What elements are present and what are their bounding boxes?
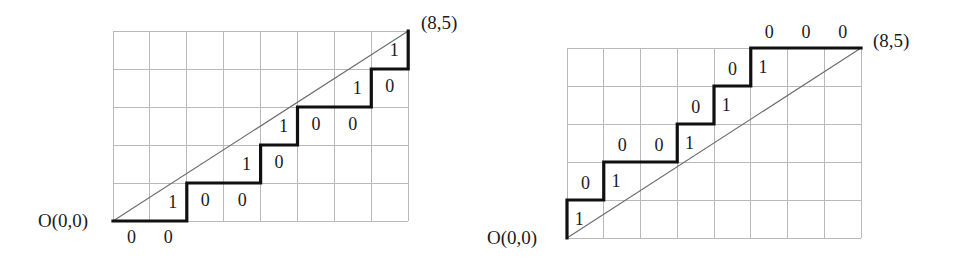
step-digit-label: 0 [724, 60, 740, 78]
step-digit-label: 0 [614, 136, 630, 154]
right-lattice-diagram: O(0,0) (8,5) 1010010101000 [479, 0, 957, 265]
step-digit-label: 0 [308, 115, 324, 133]
step-digit-label: 1 [718, 96, 734, 114]
step-digit-label: 1 [165, 193, 181, 211]
step-digit-label: 0 [651, 136, 667, 154]
step-digit-label: 1 [386, 41, 402, 59]
step-digit-label: 1 [239, 155, 255, 173]
step-digit-label: 1 [571, 210, 587, 228]
step-digit-label: 1 [755, 58, 771, 76]
step-digit-label: 0 [688, 98, 704, 116]
step-digit-label: 0 [382, 77, 398, 95]
step-digit-label: 0 [345, 115, 361, 133]
origin-label-left: O(0,0) [38, 211, 88, 230]
step-digit-label: 1 [608, 172, 624, 190]
step-digit-label: 0 [234, 191, 250, 209]
step-digit-label: 0 [271, 153, 287, 171]
step-digit-label: 0 [197, 191, 213, 209]
figure-root: O(0,0) (8,5) 0010010100101 O(0,0) (8,5) … [0, 0, 957, 265]
endpoint-label-right: (8,5) [873, 31, 909, 50]
endpoint-label-left: (8,5) [421, 13, 457, 32]
step-digit-label: 0 [160, 228, 176, 246]
step-digit-label: 0 [577, 174, 593, 192]
step-digit-label: 0 [761, 23, 777, 41]
left-lattice-diagram: O(0,0) (8,5) 0010010100101 [0, 0, 478, 265]
step-digit-label: 1 [681, 134, 697, 152]
origin-label-right: O(0,0) [487, 228, 537, 247]
step-digit-label: 1 [349, 79, 365, 97]
step-digit-label: 0 [798, 23, 814, 41]
step-digit-label: 0 [123, 228, 139, 246]
step-digit-label: 1 [275, 117, 291, 135]
step-digit-label: 0 [835, 23, 851, 41]
